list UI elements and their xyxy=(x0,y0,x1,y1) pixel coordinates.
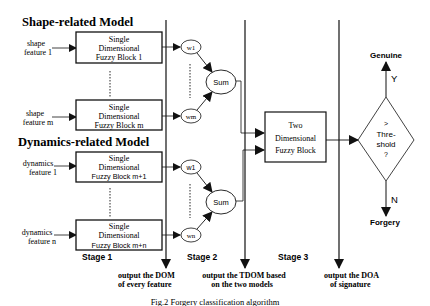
svg-text:Dimensional: Dimensional xyxy=(99,44,141,53)
no-label: N xyxy=(391,194,398,205)
svg-text:wm: wm xyxy=(186,113,197,121)
svg-text:Single: Single xyxy=(109,35,130,44)
two-dimensional-fuzzy-block: Two Dimensional Fuzzy Block xyxy=(265,112,326,162)
svg-text:Two: Two xyxy=(288,121,302,130)
genuine-label: Genuine xyxy=(370,51,403,60)
fuzzy-block-m: Single Dimensional Fuzzy Block m xyxy=(76,100,162,130)
svg-text:Single: Single xyxy=(109,154,130,163)
svg-text:of signature: of signature xyxy=(330,280,371,289)
svg-text:Dimensional: Dimensional xyxy=(99,112,141,121)
svg-text:Fuzzy Block m: Fuzzy Block m xyxy=(95,121,145,130)
svg-text:output the TDOM based: output the TDOM based xyxy=(202,271,286,280)
svg-text:output the DOM: output the DOM xyxy=(118,271,175,280)
sum-node-dynamics: Sum xyxy=(206,190,236,214)
svg-text:feature n: feature n xyxy=(28,237,56,246)
svg-text:feature 1: feature 1 xyxy=(24,48,52,57)
sum-node-shape: Sum xyxy=(206,70,236,94)
svg-text:of every feature: of every feature xyxy=(118,280,172,289)
svg-text:Fuzzy Block m+n: Fuzzy Block m+n xyxy=(92,241,147,250)
svg-text:Single: Single xyxy=(109,222,130,231)
svg-text:>: > xyxy=(384,120,388,127)
svg-text:Sum: Sum xyxy=(213,198,228,207)
fuzzy-block-1: Single Dimensional Fuzzy Block 1 xyxy=(76,32,162,63)
svg-text:wn: wn xyxy=(187,232,196,240)
weight-wm: wm xyxy=(181,109,201,123)
svg-text:on the two models: on the two models xyxy=(211,280,273,289)
svg-text:Single: Single xyxy=(109,103,130,112)
input-dynamics-feature-1: dynamics feature 1 xyxy=(23,159,57,177)
svg-text:?: ? xyxy=(384,151,388,158)
weight-wn: wn xyxy=(181,228,201,242)
figure-caption: Fig.2 Forgery classification algorithm xyxy=(151,297,280,306)
svg-text:feature 1: feature 1 xyxy=(29,168,57,177)
svg-text:dynamics: dynamics xyxy=(23,159,54,168)
forgery-label: Forgery xyxy=(370,218,400,227)
input-shape-feature-m: shape feature m xyxy=(23,109,54,127)
svg-text:Dimensional: Dimensional xyxy=(99,231,141,240)
output-tdom: output the TDOM based on the two models xyxy=(202,271,286,289)
threshold-decision: > Thre- shold ? xyxy=(358,97,414,181)
svg-text:shold: shold xyxy=(376,140,395,149)
yes-label: Y xyxy=(391,73,398,84)
output-dom: output the DOM of every feature xyxy=(118,271,175,289)
svg-text:dynamics: dynamics xyxy=(22,228,53,237)
fuzzy-block-m-plus-n: Single Dimensional Fuzzy Block m+n xyxy=(76,220,162,250)
input-shape-feature-1: shape feature 1 xyxy=(24,39,52,57)
output-doa: output the DOA of signature xyxy=(324,271,379,289)
svg-text:Dimensional: Dimensional xyxy=(275,134,317,143)
svg-text:Dimensional: Dimensional xyxy=(99,163,141,172)
svg-text:Thre-: Thre- xyxy=(376,130,395,139)
svg-text:shape: shape xyxy=(26,109,45,118)
svg-text:Fuzzy Block: Fuzzy Block xyxy=(275,146,316,155)
weight-w1-shape: w1 xyxy=(181,40,201,54)
svg-text:output the DOA: output the DOA xyxy=(324,271,379,280)
svg-text:w1: w1 xyxy=(186,164,196,171)
svg-text:Fuzzy Block m+1: Fuzzy Block m+1 xyxy=(92,172,147,181)
weight-w1-dynamics: w1 xyxy=(181,160,201,174)
svg-text:shape: shape xyxy=(27,39,46,48)
svg-text:Fuzzy Block 1: Fuzzy Block 1 xyxy=(96,53,143,62)
svg-text:Sum: Sum xyxy=(213,78,228,87)
svg-text:w1: w1 xyxy=(187,44,196,52)
shape-model-title: Shape-related Model xyxy=(22,15,134,29)
stage-3-label: Stage 3 xyxy=(278,252,309,262)
forgery-classification-diagram: Shape-related Model Dynamics-related Mod… xyxy=(0,0,430,306)
stage-2-label: Stage 2 xyxy=(187,252,218,262)
input-dynamics-feature-n: dynamics feature n xyxy=(22,228,56,246)
svg-text:feature m: feature m xyxy=(23,118,54,127)
dynamics-model-title: Dynamics-related Model xyxy=(18,135,150,149)
stage-1-label: Stage 1 xyxy=(82,252,113,262)
fuzzy-block-m-plus-1: Single Dimensional Fuzzy Block m+1 xyxy=(76,152,162,182)
